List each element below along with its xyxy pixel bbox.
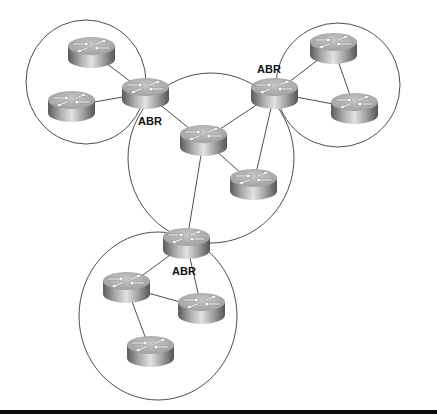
router-center-1	[180, 125, 227, 156]
router-top-right-2	[331, 93, 378, 124]
network-diagram: ABR ABR ABR	[0, 0, 437, 419]
router-abr-bottom	[163, 228, 210, 259]
abr-label-right: ABR	[257, 63, 281, 75]
abr-label-left: ABR	[138, 115, 162, 127]
figure-bottom-rule	[0, 410, 437, 414]
router-top-left-1	[68, 37, 115, 68]
router-bottom-3	[127, 336, 174, 367]
router-bottom-2	[178, 293, 225, 324]
router-top-left-2	[48, 91, 95, 122]
router-abr-right	[251, 78, 298, 109]
abr-label-bottom: ABR	[172, 265, 196, 277]
router-top-right-1	[310, 33, 357, 64]
router-center-2	[230, 169, 277, 200]
router-abr-left	[122, 78, 169, 109]
router-bottom-1	[103, 272, 150, 303]
